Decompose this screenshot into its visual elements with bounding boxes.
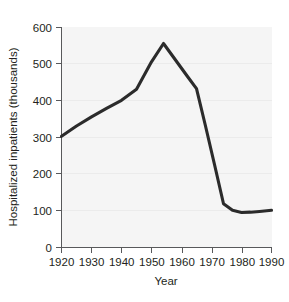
y-axis-title: Hospitalized inpatients (thousands) [7,47,19,226]
x-tick-label-1920: 1920 [49,256,75,268]
chart-figure: 600 500 400 300 200 100 0 1920 1930 1940… [0,0,289,302]
x-tick-label-1970: 1970 [199,256,225,268]
x-tick-label-1990: 1990 [259,256,285,268]
y-tick-label-100: 100 [33,205,52,217]
y-tick-label-0: 0 [46,242,52,254]
y-tick-label-300: 300 [33,132,52,144]
y-tick-label-600: 600 [33,22,52,34]
x-tick-label-1930: 1930 [79,256,105,268]
y-tick-label-200: 200 [33,168,52,180]
x-tick-label-1960: 1960 [169,256,195,268]
x-tick-label-1940: 1940 [109,256,135,268]
x-tick-label-1980: 1980 [230,256,256,268]
line-chart: 600 500 400 300 200 100 0 1920 1930 1940… [0,0,289,302]
y-tick-label-500: 500 [33,58,52,70]
x-tick-label-1950: 1950 [139,256,165,268]
x-axis-title: Year [154,275,177,287]
y-tick-label-400: 400 [33,95,52,107]
